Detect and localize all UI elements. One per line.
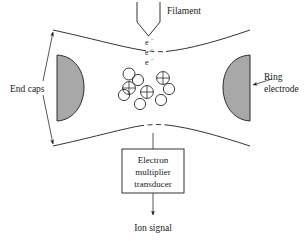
ring-electrode-label-line2: electrode xyxy=(264,84,299,94)
transducer-label-line2: multiplier xyxy=(135,167,171,177)
filament-group xyxy=(137,2,160,36)
filament-icon xyxy=(137,2,160,36)
positive-ion xyxy=(157,72,170,85)
top-curve-left-segment xyxy=(53,30,141,50)
ion-signal-label: Ion signal xyxy=(134,223,172,233)
neutral-particles-group xyxy=(118,68,174,110)
transducer-label-line1: Electron xyxy=(138,155,169,165)
end-caps-label: End caps xyxy=(10,84,45,94)
top-curve-right-segment xyxy=(166,30,250,52)
right-electrode xyxy=(223,55,250,121)
bottom-curve-left-segment xyxy=(53,126,139,146)
neutral-particle xyxy=(163,83,174,94)
electron-symbol-2: e xyxy=(145,48,149,57)
electron-label-3: e − xyxy=(145,56,154,67)
positive-ion xyxy=(123,82,136,95)
diagram-canvas: Filament e − e − e xyxy=(0,0,307,241)
electron-charge-3: − xyxy=(151,56,154,62)
end-caps-leader-upper xyxy=(43,32,53,81)
left-electrode xyxy=(57,55,84,121)
electron-symbol-1: e xyxy=(145,38,149,47)
filament-label: Filament xyxy=(167,6,201,16)
neutral-particle xyxy=(155,94,166,105)
electron-symbol-3: e xyxy=(145,58,149,67)
end-caps-leader-lower xyxy=(43,95,53,144)
bottom-curve-right-segment xyxy=(167,125,250,146)
electron-labels-group: e − e − e − xyxy=(145,36,154,67)
neutral-particle xyxy=(118,89,129,100)
electron-charge-1: − xyxy=(151,36,154,42)
bottom-curve-dashed-segment xyxy=(139,125,167,126)
ion-trap-diagram: Filament e − e − e xyxy=(0,0,307,241)
positive-ion xyxy=(141,86,154,99)
transducer-label-line3: transducer xyxy=(134,179,171,189)
electron-charge-2: − xyxy=(151,46,154,52)
neutral-particle xyxy=(134,98,145,109)
ring-electrode-label-line1: Ring xyxy=(264,72,283,82)
bottom-endcap-curve xyxy=(53,125,250,146)
neutral-particle xyxy=(123,68,135,80)
